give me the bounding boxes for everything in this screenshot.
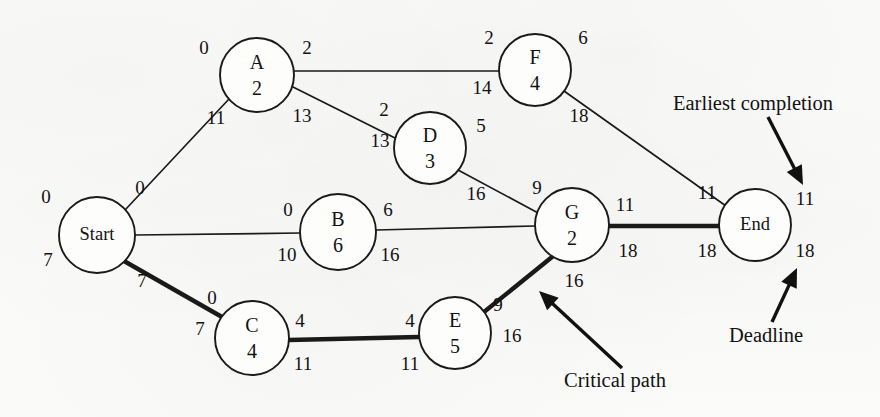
node-circle-A bbox=[220, 38, 294, 112]
node-circle-G bbox=[535, 188, 609, 262]
time-label-G-early-left: 9 bbox=[532, 177, 542, 198]
time-label-D-early-left: 2 bbox=[379, 99, 389, 120]
annotation-label-earliest-completion: Earliest completion bbox=[673, 92, 833, 115]
node-label-A: A bbox=[250, 51, 265, 73]
time-label-A-late-right: 13 bbox=[293, 105, 312, 126]
annotation-arrow-shaft-deadline bbox=[772, 282, 791, 322]
node-duration-B: 6 bbox=[333, 234, 343, 256]
time-label-A-late-left: 11 bbox=[207, 107, 225, 128]
time-label-E-early-left: 4 bbox=[405, 310, 415, 331]
time-label-G-late-left: 16 bbox=[565, 270, 584, 291]
node-duration-G: 2 bbox=[567, 227, 577, 249]
edge-start-B bbox=[135, 233, 300, 235]
annotation-arrow-shaft-critical-path bbox=[550, 301, 622, 368]
time-label-start-early-right: 0 bbox=[135, 177, 145, 198]
project-network-diagram: StartA2B6C4D3E5F4G2End 07070211130610160… bbox=[0, 0, 880, 417]
node-label-D: D bbox=[423, 124, 437, 146]
node-circle-C bbox=[215, 301, 289, 375]
diagram-canvas: StartA2B6C4D3E5F4G2End 07070211130610160… bbox=[0, 0, 880, 417]
node-duration-F: 4 bbox=[530, 72, 540, 94]
time-label-B-late-left: 10 bbox=[278, 244, 297, 265]
node-label-B: B bbox=[331, 208, 344, 230]
time-label-D-late-left: 13 bbox=[371, 130, 390, 151]
time-label-D-early-right: 5 bbox=[476, 115, 486, 136]
annotation-earliest-completion: Earliest completion bbox=[673, 92, 833, 185]
node-start[interactable]: Start bbox=[59, 197, 135, 273]
time-label-A-early-left: 0 bbox=[199, 37, 209, 58]
annotation-label-critical-path: Critical path bbox=[564, 369, 666, 392]
time-label-D-late-right: 16 bbox=[467, 183, 486, 204]
time-label-F-late-right: 18 bbox=[570, 105, 589, 126]
annotation-arrow-shaft-earliest-completion bbox=[768, 117, 796, 172]
node-F[interactable]: F4 bbox=[499, 34, 571, 106]
node-label-E: E bbox=[449, 309, 461, 331]
time-label-E-early-right: 9 bbox=[493, 294, 503, 315]
edge-C-E bbox=[289, 337, 419, 340]
time-label-F-early-right: 6 bbox=[578, 27, 588, 48]
time-label-start-late-left: 7 bbox=[43, 249, 53, 270]
time-label-C-early-left: 0 bbox=[207, 287, 217, 308]
time-label-C-late-left: 7 bbox=[195, 318, 205, 339]
time-label-start-late-right: 7 bbox=[137, 270, 147, 291]
node-label-end: End bbox=[740, 214, 771, 234]
node-duration-C: 4 bbox=[247, 340, 257, 362]
time-label-B-early-right: 6 bbox=[383, 199, 393, 220]
time-label-End-late-left: 18 bbox=[698, 240, 717, 261]
node-label-G: G bbox=[565, 201, 579, 223]
node-label-C: C bbox=[245, 314, 258, 336]
node-G[interactable]: G2 bbox=[535, 188, 609, 262]
node-C[interactable]: C4 bbox=[215, 301, 289, 375]
node-D[interactable]: D3 bbox=[394, 112, 466, 184]
node-E[interactable]: E5 bbox=[419, 297, 491, 369]
node-A[interactable]: A2 bbox=[220, 38, 294, 112]
node-B[interactable]: B6 bbox=[300, 194, 376, 270]
nodes-layer: StartA2B6C4D3E5F4G2End bbox=[59, 34, 791, 375]
node-duration-A: 2 bbox=[252, 77, 262, 99]
node-duration-D: 3 bbox=[425, 150, 435, 172]
time-label-End-late-right: 18 bbox=[796, 240, 815, 261]
time-label-G-late-right: 18 bbox=[619, 240, 638, 261]
time-label-End-early-right: 11 bbox=[796, 188, 814, 209]
node-duration-E: 5 bbox=[450, 335, 460, 357]
time-label-C-early-right: 4 bbox=[295, 310, 305, 331]
annotation-label-deadline: Deadline bbox=[729, 324, 803, 346]
time-label-E-late-left: 11 bbox=[401, 353, 419, 374]
node-circle-B bbox=[300, 194, 376, 270]
time-label-start-early-left: 0 bbox=[41, 186, 51, 207]
time-label-B-late-right: 16 bbox=[381, 244, 400, 265]
time-label-E-late-right: 16 bbox=[503, 325, 522, 346]
time-label-A-early-right: 2 bbox=[302, 37, 312, 58]
node-label-start: Start bbox=[80, 224, 116, 244]
time-label-End-early-left: 11 bbox=[698, 182, 716, 203]
time-label-F-late-left: 14 bbox=[473, 77, 493, 98]
node-label-F: F bbox=[529, 46, 540, 68]
time-label-F-early-left: 2 bbox=[484, 27, 494, 48]
edge-B-G bbox=[376, 226, 535, 230]
time-label-B-early-left: 0 bbox=[283, 199, 293, 220]
time-label-C-late-right: 11 bbox=[294, 353, 312, 374]
annotation-deadline: Deadline bbox=[729, 268, 803, 346]
node-end[interactable]: End bbox=[719, 189, 791, 261]
time-label-G-early-right: 11 bbox=[616, 194, 634, 215]
annotation-critical-path: Critical path bbox=[539, 291, 666, 392]
